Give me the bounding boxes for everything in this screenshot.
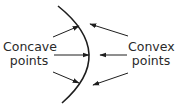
convex-label-line2: points: [128, 54, 174, 68]
arrow-concave-upper: [53, 26, 79, 37]
concave-label-line1: Concave: [3, 40, 55, 54]
arrow-concave-lower: [53, 72, 79, 83]
concave-points-label: Concave points: [3, 40, 55, 68]
concave-label-line2: points: [3, 54, 55, 68]
convex-label-line1: Convex: [128, 40, 174, 54]
arrow-convex-upper: [90, 24, 128, 36]
convex-arrows: [90, 24, 128, 85]
convex-points-label: Convex points: [128, 40, 174, 68]
concave-convex-diagram: Concave points Convex points: [0, 0, 177, 108]
arrow-convex-lower: [93, 73, 128, 85]
